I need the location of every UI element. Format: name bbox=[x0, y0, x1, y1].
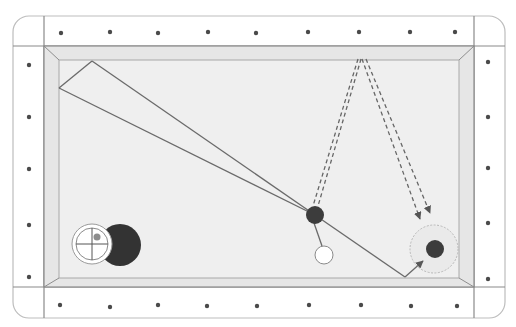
diamond-marker-left bbox=[27, 275, 31, 279]
cue-ball bbox=[315, 246, 333, 264]
diamond-marker-left bbox=[27, 63, 31, 67]
diamond-marker-top bbox=[254, 31, 258, 35]
diamond-marker-top bbox=[306, 30, 310, 34]
diamond-marker-bottom bbox=[307, 303, 311, 307]
diamond-marker-bottom bbox=[156, 303, 160, 307]
diamond-marker-top bbox=[206, 30, 210, 34]
diamond-marker-top bbox=[453, 30, 457, 34]
diamond-marker-right bbox=[486, 277, 490, 281]
object-ball bbox=[306, 206, 324, 224]
diamond-marker-bottom bbox=[359, 303, 363, 307]
diamond-marker-left bbox=[27, 115, 31, 119]
diamond-marker-bottom bbox=[108, 305, 112, 309]
diamond-marker-right bbox=[486, 115, 490, 119]
diamond-marker-left bbox=[27, 167, 31, 171]
diamond-marker-bottom bbox=[58, 303, 62, 307]
diamond-marker-right bbox=[486, 60, 490, 64]
billiards-table bbox=[0, 0, 516, 327]
diamond-marker-top bbox=[156, 31, 160, 35]
diamond-marker-top bbox=[357, 30, 361, 34]
diamond-marker-bottom bbox=[455, 304, 459, 308]
diamond-marker-top bbox=[408, 30, 412, 34]
diamond-marker-top bbox=[59, 31, 63, 35]
diamond-marker-bottom bbox=[205, 304, 209, 308]
diamond-marker-bottom bbox=[409, 304, 413, 308]
target-ball bbox=[426, 240, 444, 258]
diamond-marker-bottom bbox=[255, 304, 259, 308]
diamond-marker-right bbox=[486, 221, 490, 225]
diamond-marker-top bbox=[108, 30, 112, 34]
billiards-diagram bbox=[0, 0, 516, 327]
diamond-marker-left bbox=[27, 223, 31, 227]
contact-point-dot bbox=[94, 234, 101, 241]
english-indicator bbox=[72, 224, 141, 266]
diamond-marker-right bbox=[486, 166, 490, 170]
